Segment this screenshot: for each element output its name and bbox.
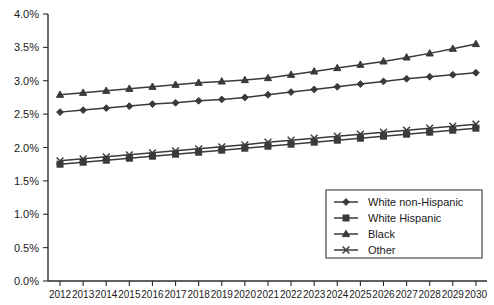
y-tick-label: 3.5% <box>14 41 39 53</box>
y-tick-label: 2.5% <box>14 108 39 120</box>
y-tick-label: 2.0% <box>14 142 39 154</box>
diamond-marker <box>449 71 456 78</box>
diamond-marker <box>172 99 179 106</box>
x-tick-label: 2029 <box>442 289 465 300</box>
x-tick-label: 2017 <box>164 289 187 300</box>
series-path <box>60 44 476 95</box>
x-tick-label: 2016 <box>141 289 164 300</box>
legend-square-marker <box>343 215 349 221</box>
diamond-marker <box>473 69 480 76</box>
diamond-marker <box>380 78 387 85</box>
x-tick-label: 2024 <box>326 289 349 300</box>
x-tick-label: 2015 <box>118 289 141 300</box>
series-black <box>56 40 479 97</box>
x-axis-ticks: 2012201320142015201620172018201920202021… <box>49 281 488 300</box>
x-tick-label: 2026 <box>372 289 395 300</box>
x-tick-label: 2028 <box>419 289 442 300</box>
series-layer <box>56 40 479 167</box>
diamond-marker <box>149 101 156 108</box>
diamond-marker <box>311 86 318 93</box>
diamond-marker <box>426 73 433 80</box>
line-chart: 0.0%0.5%1.0%1.5%2.0%2.5%3.0%3.5%4.0% 201… <box>0 0 494 305</box>
x-tick-label: 2022 <box>280 289 303 300</box>
series-white-hispanic <box>57 125 479 167</box>
diamond-marker <box>403 75 410 82</box>
diamond-marker <box>241 94 248 101</box>
y-tick-label: 4.0% <box>14 8 39 20</box>
legend-label: Black <box>368 228 395 240</box>
diamond-marker <box>288 89 295 96</box>
diamond-marker <box>57 109 64 116</box>
chart-container: 0.0%0.5%1.0%1.5%2.0%2.5%3.0%3.5%4.0% 201… <box>0 0 494 305</box>
chart-legend: White non-HispanicWhite HispanicBlackOth… <box>326 190 482 258</box>
x-tick-label: 2023 <box>303 289 326 300</box>
diamond-marker <box>126 103 133 110</box>
y-tick-label: 0.0% <box>14 275 39 287</box>
y-axis-ticks: 0.0%0.5%1.0%1.5%2.0%2.5%3.0%3.5%4.0% <box>14 8 48 287</box>
x-tick-label: 2020 <box>234 289 257 300</box>
legend-label: White non-Hispanic <box>368 196 464 208</box>
diamond-marker <box>80 107 87 114</box>
diamond-marker <box>357 81 364 88</box>
x-tick-label: 2030 <box>465 289 488 300</box>
x-tick-label: 2018 <box>188 289 211 300</box>
diamond-marker <box>265 91 272 98</box>
y-tick-label: 1.5% <box>14 175 39 187</box>
diamond-marker <box>195 97 202 104</box>
x-tick-label: 2027 <box>395 289 418 300</box>
series-other <box>57 121 480 165</box>
legend-label: White Hispanic <box>368 212 442 224</box>
triangle-marker <box>472 40 479 46</box>
diamond-marker <box>218 96 225 103</box>
y-tick-label: 1.0% <box>14 208 39 220</box>
x-tick-label: 2021 <box>257 289 280 300</box>
legend-label: Other <box>368 244 396 256</box>
diamond-marker <box>103 105 110 112</box>
x-tick-label: 2025 <box>349 289 372 300</box>
y-tick-label: 3.0% <box>14 75 39 87</box>
x-tick-label: 2019 <box>211 289 234 300</box>
x-tick-label: 2013 <box>72 289 95 300</box>
y-tick-label: 0.5% <box>14 242 39 254</box>
x-tick-label: 2014 <box>95 289 118 300</box>
x-tick-label: 2012 <box>49 289 72 300</box>
diamond-marker <box>334 83 341 90</box>
